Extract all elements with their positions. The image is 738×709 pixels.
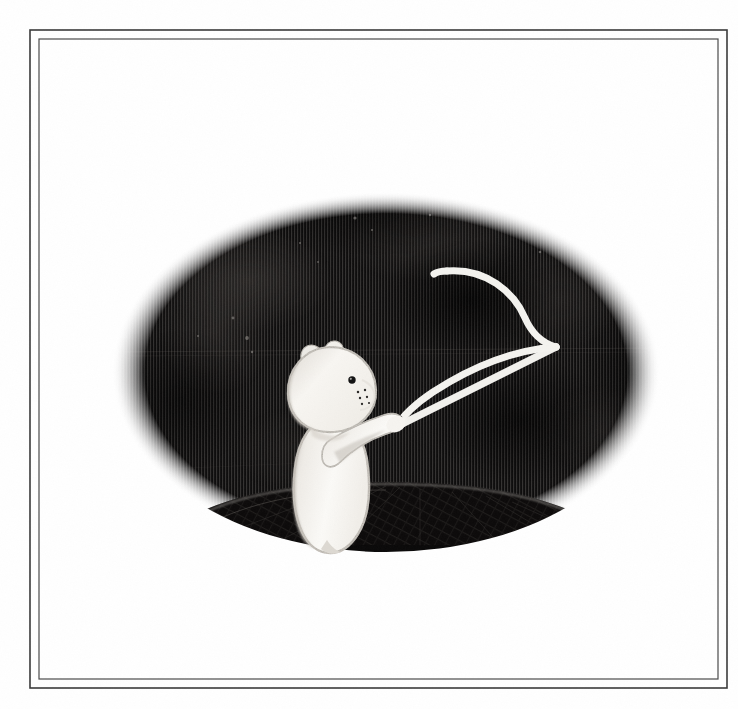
artboard (0, 0, 738, 709)
illustration-canvas (0, 0, 738, 709)
illustration-page (0, 0, 738, 709)
paper-grain-overlay (0, 0, 738, 709)
